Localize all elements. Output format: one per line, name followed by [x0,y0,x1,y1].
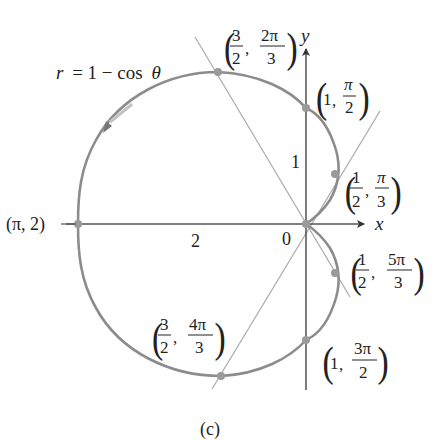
cardioid-diagram: r = 1 − cos θ y x 0 1 2 (π, 2) ( 3 2 , 2… [0,0,435,440]
frac-num: 3 [232,26,241,45]
comma: , [371,263,375,282]
frac-den: 3 [377,192,386,211]
label-1-3pi-2: ( 1 , 3π 2 ) [322,338,388,385]
frac-den: 2 [359,363,368,382]
frac-num: 1 [358,250,367,269]
label-1-2-pi-3: ( 1 2 , π 3 ) [345,168,402,216]
frac-num: 2π [261,26,279,45]
comma: , [339,355,343,374]
frac-num: 3 [160,315,169,334]
frac-num: 3π [354,339,372,358]
equation-label: r = 1 − cos θ [56,62,161,83]
point-1-3pi-2 [302,336,310,344]
paren-close: ) [414,249,425,296]
paren-close: ) [286,24,297,71]
label-pi-2: (π, 2) [6,214,45,235]
figure-caption: (c) [200,419,220,440]
r-value: 1 [330,354,339,373]
comma: , [365,181,369,200]
paren-close: ) [378,338,389,385]
y-axis-label: y [299,25,310,46]
x-axis-label: x [374,213,384,234]
point-origin [302,220,310,228]
comma: , [173,328,177,347]
label-1-pi-2: ( 1 , π 2 ) [316,74,370,121]
label-3-2-2pi-3: ( 3 2 , 2π 3 ) [224,24,298,71]
frac-den: 3 [195,338,204,357]
frac-num: π [344,75,353,94]
frac-den: 2 [232,49,241,68]
frac-num: π [377,168,386,187]
comma: , [332,91,336,110]
point-3-2-4pi-3 [217,372,225,380]
tick-label-x-2: 2 [191,231,200,251]
tick-label-y-1: 1 [291,152,300,172]
point-1-2-pi-3 [331,170,339,178]
frac-num: 1 [352,168,361,187]
paren-close: ) [358,74,369,121]
frac-num: 5π [388,250,406,269]
frac-den: 3 [267,49,276,68]
paren-close: ) [390,168,401,215]
frac-den: 2 [352,192,361,211]
point-3-2-2pi-3 [214,68,222,76]
frac-den: 2 [160,338,169,357]
point-1-2-5pi-3 [331,269,339,277]
comma: , [245,39,249,58]
label-1-2-5pi-3: ( 1 2 , 5π 3 ) [350,249,424,296]
origin-label: 0 [282,229,291,249]
label-3-2-4pi-3: ( 3 2 , 4π 3 ) [152,314,226,361]
frac-den: 2 [358,273,367,292]
frac-num: 4π [189,315,207,334]
point-1-pi-2 [302,104,310,112]
paren-close: ) [214,314,225,361]
r-value: 1 [323,90,332,109]
frac-den: 2 [345,98,354,117]
frac-den: 3 [394,273,403,292]
